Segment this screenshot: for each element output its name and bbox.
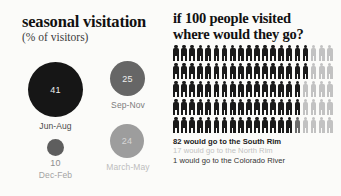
person-icon-south-rim [269,80,277,97]
person-icon-north-rim [318,98,326,115]
person-icon-south-rim [245,116,253,133]
person-icon-north-rim [310,44,318,61]
person-icon-south-rim [285,44,293,61]
person-icon-south-rim [237,80,245,97]
person-icon-north-rim [326,98,334,115]
bubble-sep-nov: 25 [110,61,145,96]
person-icon-south-rim [188,62,196,79]
person-icon-south-rim [172,44,180,61]
person-icon-south-rim [253,62,261,79]
person-icon-south-rim [229,116,237,133]
person-icon-south-rim [261,80,269,97]
person-icon-north-rim [318,80,326,97]
person-icon-south-rim [237,98,245,115]
seasonal-subtitle: (% of visitors) [22,31,88,43]
person-icon-south-rim [253,44,261,61]
person-icon-south-rim [180,80,188,97]
seasonal-title: seasonal visitation [22,12,146,32]
person-icon-south-rim [302,44,310,61]
person-icon-south-rim [212,80,220,97]
person-icon-south-rim [245,44,253,61]
destination-legend: 82 would go to the South Rim 17 would go… [173,137,341,165]
person-icon-south-rim [229,44,237,61]
person-icon-south-rim [293,98,301,115]
person-icon-south-rim [212,62,220,79]
person-icon-south-rim [229,98,237,115]
person-icon-south-rim [221,44,229,61]
people-heading-line1: if 100 people visited [173,11,304,27]
pictogram-grid [172,44,338,134]
person-icon-south-rim [180,62,188,79]
person-icon-south-rim [229,80,237,97]
person-icon-south-rim [196,80,204,97]
person-icon-south-rim [212,98,220,115]
person-icon-south-rim [221,62,229,79]
person-icon-south-rim [293,80,301,97]
legend-line-colorado-river: 1 would go to the Colorado River [173,156,341,165]
person-icon-north-rim [310,80,318,97]
person-icon-south-rim [253,80,261,97]
person-icon-north-rim [326,116,334,133]
person-icon-colorado-river [293,116,301,133]
person-icon-south-rim [285,80,293,97]
person-icon-south-rim [204,44,212,61]
person-icon-south-rim [221,98,229,115]
person-icon-south-rim [188,44,196,61]
person-icon-south-rim [196,62,204,79]
person-icon-south-rim [204,98,212,115]
pictogram-row [172,98,338,116]
person-icon-north-rim [302,98,310,115]
person-icon-south-rim [245,80,253,97]
bubble-label-march-may: March-May [88,162,168,172]
person-icon-south-rim [172,98,180,115]
person-icon-south-rim [261,116,269,133]
people-heading-line2: where would they go? [173,27,304,43]
person-icon-south-rim [245,98,253,115]
person-icon-south-rim [277,116,285,133]
person-icon-north-rim [318,44,326,61]
bubble-dec-feb [47,139,64,156]
person-icon-south-rim [172,62,180,79]
person-icon-south-rim [188,98,196,115]
person-icon-south-rim [269,116,277,133]
person-icon-south-rim [180,116,188,133]
bubble-value-dec-feb: 10 [18,158,93,168]
person-icon-south-rim [293,44,301,61]
bubble-value-march-may: 24 [110,136,144,146]
person-icon-south-rim [221,116,229,133]
person-icon-south-rim [172,80,180,97]
seasonal-visitation-panel: seasonal visitation (% of visitors) 41 J… [0,0,166,196]
visitor-destination-panel: if 100 people visited where would they g… [168,0,341,196]
person-icon-north-rim [302,80,310,97]
person-icon-south-rim [285,62,293,79]
person-icon-south-rim [269,62,277,79]
person-icon-south-rim [261,98,269,115]
person-icon-north-rim [318,62,326,79]
person-icon-south-rim [237,116,245,133]
person-icon-south-rim [277,44,285,61]
person-icon-north-rim [318,116,326,133]
person-icon-south-rim [172,116,180,133]
pictogram-row [172,62,338,80]
pictogram-row [172,44,338,62]
people-heading: if 100 people visited where would they g… [173,11,304,42]
bubble-label-sep-nov: Sep-Nov [92,100,164,110]
pictogram-row [172,116,338,134]
person-icon-south-rim [269,98,277,115]
person-icon-south-rim [196,116,204,133]
bubble-label-dec-feb: Dec-Feb [18,170,93,180]
bubble-value-sep-nov: 25 [110,73,145,83]
person-icon-south-rim [277,80,285,97]
person-icon-south-rim [212,44,220,61]
person-icon-south-rim [277,62,285,79]
bubble-label-jun-aug: Jun-Aug [18,121,93,131]
person-icon-north-rim [326,44,334,61]
person-icon-south-rim [277,98,285,115]
person-icon-south-rim [293,62,301,79]
person-icon-south-rim [204,116,212,133]
person-icon-south-rim [180,44,188,61]
person-icon-north-rim [302,116,310,133]
legend-line-south-rim: 82 would go to the South Rim [173,137,341,146]
person-icon-south-rim [204,62,212,79]
person-icon-south-rim [237,62,245,79]
